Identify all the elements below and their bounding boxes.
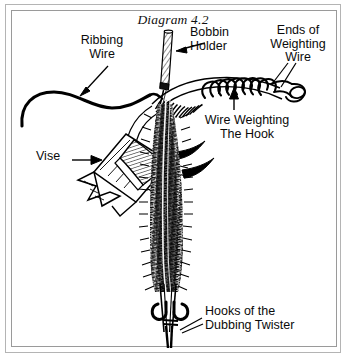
- dubbing-twister-shape: [152, 284, 188, 348]
- callout-leaders: [72, 43, 296, 333]
- leader-ribbing-wire: [80, 66, 108, 96]
- callout-wire-weighting-the-hook: Wire Weighting The Hook: [186, 114, 308, 141]
- leader-vise: [72, 156, 102, 165]
- callout-vise: Vise: [36, 150, 74, 164]
- ribbing-wire-shape: [22, 92, 160, 126]
- callout-ribbing-wire: Ribbing Wire: [60, 34, 144, 61]
- callout-ends-of-weighting-wire: Ends of Weighting Wire: [258, 24, 338, 65]
- callout-bobbin-holder: Bobbin Holder: [190, 26, 262, 53]
- hook-point-shape: [176, 141, 214, 178]
- diagram-figure: Diagram 4.2 Ribbing Wire Bobbin Holder E…: [0, 0, 346, 358]
- leader-wire-weighting: [230, 88, 239, 110]
- callout-hooks-of-the-dubbing-twister: Hooks of the Dubbing Twister: [205, 305, 327, 332]
